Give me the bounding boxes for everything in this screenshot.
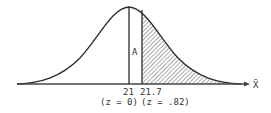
axis-label: X̄ — [253, 79, 259, 90]
value-label: 21.7 — [140, 87, 162, 97]
mean-z-label: (z = 0) — [100, 97, 138, 107]
normal-curve-diagram: A X̄ 21 21.7 (z = 0) (z = .82) — [0, 0, 271, 113]
area-label: A — [132, 47, 138, 57]
mean-label: 21 — [123, 87, 134, 97]
axis-arrow-icon — [244, 82, 250, 87]
value-z-label: (z = .82) — [141, 97, 190, 107]
